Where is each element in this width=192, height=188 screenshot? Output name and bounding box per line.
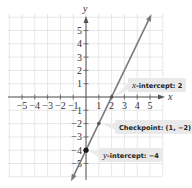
callout-text: Checkpoint: (1, −2) [119,124,191,132]
y-tick-label: −4 [71,145,82,156]
callout-label: y-intercept: −4 [102,150,159,160]
x-axis-arrow-icon [158,95,165,100]
y-tick-label: 5 [77,25,82,36]
line-arrow-down-icon [71,174,76,181]
callout-text: -intercept: 2 [136,82,183,90]
callout-text: -intercept: −4 [107,152,159,160]
x-tick-label: −3 [42,100,53,111]
y-tick-label: 3 [77,52,82,63]
y-tick-label: 1 [77,78,82,89]
x-intercept-point [110,95,114,99]
coordinate-plane-chart: −5−4−3−2−11234554321−1−2−3−4−5 x-interce… [0,0,192,188]
x-tick-label: 4 [135,100,140,111]
y-tick-label: −2 [71,118,82,129]
callouts: x-intercept: 2Checkpoint: (1, −2)y-inter… [99,78,192,162]
y-tick-label: −3 [71,131,82,142]
y-intercept-point [83,148,88,153]
x-tick-label: 5 [148,100,153,111]
y-tick-label: 2 [77,65,82,76]
y-axis-label: y [82,3,88,14]
callout-label: Checkpoint: (1, −2) [119,124,191,132]
x-tick-label: −2 [55,100,66,111]
x-axis-label: x [167,91,173,102]
callout-label: x-intercept: 2 [131,80,183,90]
x-tick-label: −4 [29,100,40,111]
callout-pointer [101,123,117,131]
x-tick-label: 3 [122,100,127,111]
x-tick-label: 1 [96,100,101,111]
checkpoint-point [97,122,101,126]
x-tick-label: −5 [17,100,28,111]
y-tick-label: −1 [71,105,82,116]
y-tick-label: 4 [77,38,82,49]
line-arrow-up-icon [146,14,151,21]
